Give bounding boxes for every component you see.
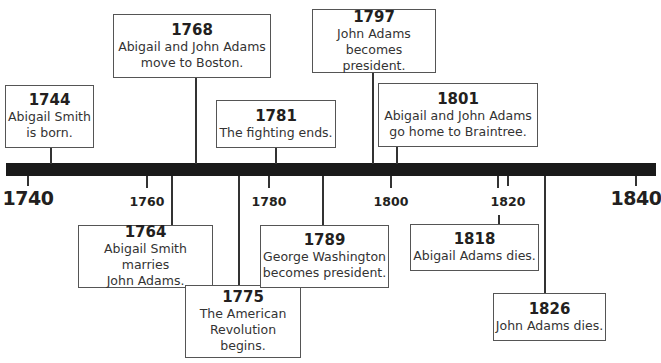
- connector-1826: [544, 176, 546, 294]
- connector-1801: [396, 146, 398, 164]
- event-text: Abigail Smith: [6, 109, 93, 125]
- event-year: 1818: [411, 231, 538, 248]
- event-year: 1826: [494, 301, 605, 318]
- connector-1797: [372, 72, 374, 164]
- tick-1760: [146, 176, 148, 188]
- event-text: move to Boston.: [114, 55, 270, 71]
- event-text: Revolution begins.: [186, 322, 300, 354]
- tick-label-1780: 1780: [252, 194, 287, 209]
- tick-label-1840: 1840: [611, 187, 661, 209]
- event-year: 1775: [186, 289, 300, 306]
- event-text: The American: [186, 306, 300, 322]
- event-year: 1764: [79, 224, 212, 241]
- connector-1789: [322, 176, 324, 226]
- tick-1820: [507, 176, 509, 186]
- event-box-1775: 1775 The American Revolution begins.: [185, 285, 301, 358]
- connector-1781: [275, 147, 277, 164]
- event-text: is born.: [6, 125, 93, 141]
- event-box-1826: 1826 John Adams dies.: [493, 293, 606, 341]
- tick-label-1760: 1760: [130, 194, 165, 209]
- event-year: 1768: [114, 22, 270, 39]
- event-box-1768: 1768 Abigail and John Adams move to Bost…: [113, 14, 271, 78]
- tick-1780: [268, 176, 270, 188]
- event-text: Abigail Adams dies.: [411, 248, 538, 264]
- event-box-1744: 1744 Abigail Smith is born.: [5, 85, 94, 148]
- tick-label-1820: 1820: [491, 194, 526, 209]
- tick-1800: [390, 176, 392, 188]
- event-text: George Washington: [261, 249, 388, 265]
- event-box-1789: 1789 George Washington becomes president…: [260, 225, 389, 288]
- connector-1744: [50, 147, 52, 164]
- event-year: 1781: [217, 108, 335, 125]
- event-box-1801: 1801 Abigail and John Adams go home to B…: [378, 83, 538, 147]
- connector-1768: [195, 77, 197, 164]
- tick-1840: [635, 176, 637, 186]
- event-box-1764: 1764 Abigail Smith marries John Adams.: [78, 225, 213, 288]
- tick-1740: [27, 176, 29, 186]
- event-text: becomes president.: [261, 265, 388, 281]
- event-year: 1789: [261, 232, 388, 249]
- event-text: The fighting ends.: [217, 125, 335, 141]
- event-box-1781: 1781 The fighting ends.: [216, 100, 336, 148]
- event-text: John Adams dies.: [494, 318, 605, 334]
- event-box-1818: 1818 Abigail Adams dies.: [410, 224, 539, 271]
- event-text: Abigail and John Adams: [114, 39, 270, 55]
- event-year: 1744: [6, 92, 93, 109]
- event-text: go home to Braintree.: [379, 124, 537, 140]
- tick-label-1800: 1800: [374, 194, 409, 209]
- event-text: Abigail and John Adams: [379, 108, 537, 124]
- event-text: Abigail Smith marries: [79, 241, 212, 273]
- connector-1775: [238, 176, 240, 286]
- tick-label-1740: 1740: [3, 187, 54, 209]
- event-text: John Adams: [313, 26, 435, 42]
- event-text: becomes president.: [313, 42, 435, 74]
- connector-1818: [497, 176, 499, 188]
- event-year: 1797: [313, 9, 435, 26]
- event-year: 1801: [379, 91, 537, 108]
- connector-1764: [171, 176, 173, 226]
- timeline-bar: [6, 163, 656, 176]
- event-box-1797: 1797 John Adams becomes president.: [312, 9, 436, 73]
